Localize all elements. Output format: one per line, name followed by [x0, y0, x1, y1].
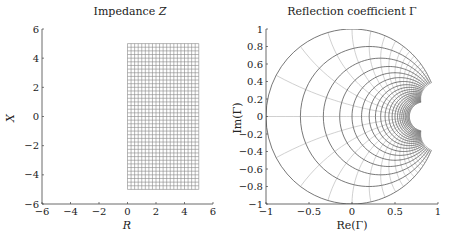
x-tick-label: −4: [63, 206, 78, 217]
y-tick-label: 0: [257, 111, 263, 122]
y-tick-label: 1: [257, 24, 263, 35]
x-tick-label: 4: [181, 206, 187, 217]
y-tick-label: −2: [24, 140, 39, 151]
y-tick-label: 6: [33, 24, 39, 35]
right-title: Reflection coefficient Γ: [287, 5, 417, 18]
y-tick-label: −1: [248, 199, 263, 210]
y-tick-label: 0: [33, 111, 39, 122]
y-tick-label: −0.6: [239, 164, 263, 175]
x-tick-label: −0.5: [297, 206, 321, 217]
x-tick-label: 6: [210, 206, 216, 217]
y-tick-label: 2: [33, 82, 39, 93]
x-tick-label: −2: [92, 206, 107, 217]
left-ylabel: X: [4, 113, 17, 123]
left-xlabel: R: [122, 219, 131, 232]
y-tick-label: −0.8: [239, 181, 263, 192]
impedance-mesh: [128, 44, 199, 190]
figure: −6−4−20246−6−4−20246 Impedance Z R X −1−…: [0, 0, 449, 236]
left-title: Impedance Z: [94, 5, 167, 18]
x-tick-label: 2: [153, 206, 159, 217]
y-tick-label: 0.4: [247, 76, 263, 87]
x-tick-label: 0: [349, 206, 355, 217]
x-tick-label: 0: [124, 206, 130, 217]
y-tick-label: 4: [33, 53, 39, 64]
y-tick-label: 0.6: [247, 59, 263, 70]
x-tick-label: 1: [435, 206, 441, 217]
y-tick-label: 0.8: [247, 41, 263, 52]
reflection-plot: −1−0.500.51−1−0.8−0.6−0.4−0.200.20.40.60…: [231, 5, 441, 232]
right-ylabel: Im(Γ): [231, 103, 244, 134]
y-tick-label: 0.2: [247, 94, 263, 105]
reflection-mesh: [266, 29, 431, 204]
x-tick-label: 0.5: [387, 206, 403, 217]
right-xlabel: Re(Γ): [336, 219, 367, 232]
impedance-plot: −6−4−20246−6−4−20246 Impedance Z R X: [4, 5, 216, 232]
y-tick-label: −6: [24, 199, 39, 210]
y-tick-label: −0.4: [239, 146, 263, 157]
y-tick-label: −4: [24, 169, 39, 180]
